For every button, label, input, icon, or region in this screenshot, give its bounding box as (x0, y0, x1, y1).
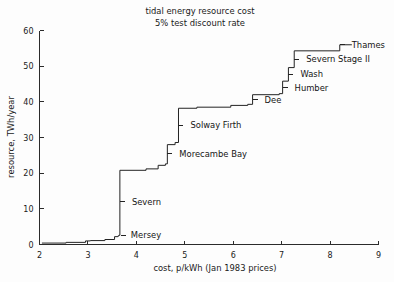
x-axis-tick-label: 3 (85, 251, 90, 260)
annotation-label: Solway Firth (190, 120, 241, 130)
annotation-label: Mersey (131, 230, 161, 240)
y-axis-label: resource, TWh/year (6, 96, 16, 178)
x-axis-tick-label: 8 (328, 251, 333, 260)
x-axis-tick-label: 7 (279, 251, 284, 260)
x-axis-tick-label: 6 (231, 251, 236, 260)
annotation-label: Severn (132, 197, 161, 207)
annotation-label: Humber (295, 83, 329, 93)
x-axis-label: cost, p/kWh (Jan 1983 prices) (153, 263, 276, 273)
y-axis-tick-label: 60 (23, 27, 33, 36)
x-axis-tick-label: 2 (37, 251, 42, 260)
y-axis-tick-label: 10 (23, 205, 33, 214)
x-axis-tick-label: 4 (134, 251, 139, 260)
chart-title-line2: 5% test discount rate (155, 18, 245, 28)
y-axis-tick-label: 50 (23, 62, 33, 71)
annotation-label: Morecambe Bay (179, 149, 247, 159)
x-axis-tick-label: 9 (376, 251, 381, 260)
annotation-label: Dee (265, 95, 282, 105)
annotation-label: Thames (351, 40, 385, 50)
chart-figure: tidal energy resource cost5% test discou… (0, 0, 394, 282)
annotation-label: Severn Stage II (306, 54, 370, 64)
chart-canvas: tidal energy resource cost5% test discou… (0, 0, 394, 282)
y-axis-tick-label: 0 (28, 241, 33, 250)
y-axis-tick-label: 40 (23, 98, 33, 107)
chart-title-line1: tidal energy resource cost (145, 6, 255, 16)
x-axis-tick-label: 5 (182, 251, 187, 260)
y-axis-tick-label: 30 (23, 134, 33, 143)
annotation-label: Wash (300, 69, 323, 79)
y-axis-tick-label: 20 (23, 169, 33, 178)
